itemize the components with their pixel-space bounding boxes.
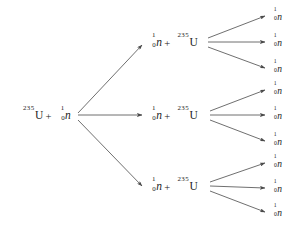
leaf-2: 10n	[268, 36, 282, 48]
leaf-8-atomic-number: 0	[274, 188, 277, 194]
g2-1-neutron-symbol: n	[156, 36, 162, 48]
g2-1-uranium-mass-number: 235	[177, 32, 189, 39]
leaf-6: 10n	[268, 135, 282, 147]
leaf-3: 10n	[268, 62, 282, 74]
leaf-2-symbol: n	[277, 38, 282, 48]
chain-reaction-diagram: 235U+10n 10n+235U 10n+235U 10n+235U 10n …	[0, 0, 291, 231]
g2-1-uranium-prescript: 235	[172, 35, 189, 47]
root-neutron-atomic-number: 0	[61, 115, 64, 122]
leaf-6-prescript: 10	[268, 135, 277, 145]
leaf-1-symbol: n	[277, 12, 282, 22]
g2-2-neutron-prescript: 10	[145, 108, 156, 120]
leaf-5-prescript: 10	[268, 109, 277, 119]
leaf-1-neutron: 10n	[268, 10, 282, 22]
root-neutron: 10n	[54, 108, 71, 122]
g2-3-uranium-symbol: U	[189, 180, 197, 192]
leaf-4-atomic-number: 0	[274, 90, 277, 96]
g2-2-neutron: 10n	[145, 108, 162, 122]
root-neutron-symbol: n	[65, 109, 71, 121]
leaf-5: 10n	[268, 109, 282, 121]
leaf-3-mass-number: 1	[274, 59, 277, 65]
leaf-9: 10n	[268, 206, 282, 218]
leaf-4-prescript: 10	[268, 84, 277, 94]
g2-2-plus-operator: +	[162, 111, 173, 122]
arrow-node2-to-leaf6	[210, 120, 265, 141]
leaf-2-atomic-number: 0	[274, 42, 277, 48]
g2-2-uranium-prescript: 235	[172, 108, 189, 120]
leaf-9-atomic-number: 0	[274, 212, 277, 218]
leaf-2-prescript: 10	[268, 36, 277, 46]
leaf-1-prescript: 10	[268, 10, 277, 20]
leaf-8-mass-number: 1	[274, 179, 277, 185]
node-root: 235U+10n	[18, 108, 71, 122]
g2-3-neutron: 10n	[145, 179, 162, 193]
leaf-9-prescript: 10	[268, 206, 277, 216]
arrow-node2-to-leaf4	[210, 90, 265, 111]
node-g2-3: 10n+235U	[145, 179, 198, 193]
leaf-6-neutron: 10n	[268, 135, 282, 147]
arrow-node3-to-leaf8	[210, 186, 265, 188]
leaf-5-mass-number: 1	[274, 106, 277, 112]
leaf-3-prescript: 10	[268, 62, 277, 72]
g2-2-neutron-symbol: n	[156, 109, 162, 121]
arrow-root-to-node3	[78, 120, 142, 186]
leaf-6-mass-number: 1	[274, 132, 277, 138]
root-neutron-prescript: 10	[54, 108, 65, 120]
leaf-3-neutron: 10n	[268, 62, 282, 74]
node-g2-2: 10n+235U	[145, 108, 198, 122]
leaf-4-mass-number: 1	[274, 81, 277, 87]
g2-3-neutron-prescript: 10	[145, 179, 156, 191]
g2-1-uranium-235: 235U	[172, 35, 197, 49]
g2-2-neutron-mass-number: 1	[152, 105, 156, 112]
root-plus-operator: +	[43, 111, 54, 122]
root-uranium-mass-number: 235	[23, 105, 35, 112]
leaf-4: 10n	[268, 84, 282, 96]
leaf-1-mass-number: 1	[274, 7, 277, 13]
leaf-7-atomic-number: 0	[274, 163, 277, 169]
root-uranium-prescript: 235	[18, 108, 35, 120]
g2-1-plus-operator: +	[162, 38, 173, 49]
leaf-8: 10n	[268, 182, 282, 194]
leaf-4-neutron: 10n	[268, 84, 282, 96]
leaf-7-symbol: n	[277, 159, 282, 169]
root-uranium-235: 235U	[18, 108, 43, 122]
leaf-7-prescript: 10	[268, 157, 277, 167]
leaf-8-prescript: 10	[268, 182, 277, 192]
leaf-7-neutron: 10n	[268, 157, 282, 169]
g2-3-neutron-mass-number: 1	[152, 176, 156, 183]
leaf-7: 10n	[268, 157, 282, 169]
g2-3-uranium-235: 235U	[172, 179, 197, 193]
leaf-5-symbol: n	[277, 111, 282, 121]
g2-2-uranium-235: 235U	[172, 108, 197, 122]
g2-1-uranium-symbol: U	[189, 36, 197, 48]
g2-2-uranium-symbol: U	[189, 109, 197, 121]
g2-3-plus-operator: +	[162, 182, 173, 193]
leaf-2-neutron: 10n	[268, 36, 282, 48]
node-g2-1: 10n+235U	[145, 35, 198, 49]
leaf-1-atomic-number: 0	[274, 16, 277, 22]
g2-1-neutron: 10n	[145, 35, 162, 49]
leaf-3-symbol: n	[277, 64, 282, 74]
g2-3-uranium-prescript: 235	[172, 179, 189, 191]
arrow-node1-to-leaf3	[208, 47, 265, 68]
root-neutron-mass-number: 1	[61, 105, 65, 112]
root-uranium-symbol: U	[35, 109, 43, 121]
arrow-root-to-node1	[78, 45, 142, 113]
g2-3-uranium-mass-number: 235	[177, 176, 189, 183]
g2-1-neutron-mass-number: 1	[152, 32, 156, 39]
arrow-node3-to-leaf9	[210, 191, 265, 212]
g2-2-uranium-mass-number: 235	[177, 105, 189, 112]
g2-2-neutron-atomic-number: 0	[152, 115, 155, 122]
leaf-5-atomic-number: 0	[274, 115, 277, 121]
leaf-5-neutron: 10n	[268, 109, 282, 121]
arrow-node3-to-leaf7	[210, 163, 265, 182]
leaf-3-atomic-number: 0	[274, 68, 277, 74]
leaf-6-atomic-number: 0	[274, 141, 277, 147]
g2-3-neutron-atomic-number: 0	[152, 186, 155, 193]
leaf-4-symbol: n	[277, 86, 282, 96]
g2-1-neutron-atomic-number: 0	[152, 42, 155, 49]
leaf-2-mass-number: 1	[274, 33, 277, 39]
leaf-1: 10n	[268, 10, 282, 22]
leaf-9-mass-number: 1	[274, 203, 277, 209]
leaf-6-symbol: n	[277, 137, 282, 147]
